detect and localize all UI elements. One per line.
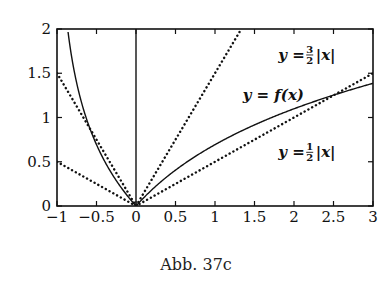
svg-text:|x|: |x|: [316, 46, 336, 64]
y-tick-label: 0: [41, 197, 51, 215]
annotation-f: y = f(x): [242, 86, 304, 104]
x-tick-label: 2: [289, 208, 299, 226]
series-1-line: [57, 29, 241, 206]
function-plot: −1−0.500.511.522.5300.511.52y = 32|x|y =…: [0, 0, 392, 250]
y-tick-label: 2: [41, 20, 51, 38]
series-2-line: [57, 73, 373, 206]
svg-text:2: 2: [306, 152, 313, 163]
x-tick-label: −0.5: [78, 208, 114, 226]
svg-text:2: 2: [306, 55, 313, 66]
annotation-2: y =: [277, 143, 305, 161]
annotation-0: y =: [277, 46, 305, 64]
y-tick-label: 1.5: [27, 64, 51, 82]
x-tick-label: 3: [368, 208, 378, 226]
figure-caption: Abb. 37c: [0, 255, 392, 274]
svg-text:|x|: |x|: [316, 143, 336, 161]
svg-text:1: 1: [306, 141, 313, 152]
y-tick-label: 0.5: [27, 153, 51, 171]
x-tick-label: 1.5: [243, 208, 267, 226]
svg-text:3: 3: [306, 44, 313, 55]
x-tick-label: 1: [210, 208, 220, 226]
x-tick-label: 2.5: [322, 208, 346, 226]
x-tick-label: 0: [131, 208, 141, 226]
x-tick-label: 0.5: [164, 208, 188, 226]
y-tick-label: 1: [41, 109, 51, 127]
